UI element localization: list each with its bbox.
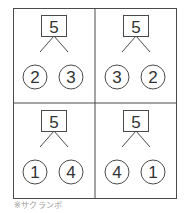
part-number-left: 1 <box>30 163 39 182</box>
part-number-right: 1 <box>148 163 157 182</box>
part-number-right: 3 <box>66 68 75 87</box>
part-number-left: 3 <box>112 68 121 87</box>
number-bond-cell: 5 1 4 <box>23 111 83 185</box>
number-bond-grid: 5 2 3 5 3 2 5 1 4 <box>13 8 177 199</box>
bond-line-right <box>136 131 150 147</box>
caption: ※サクランボ <box>14 199 63 210</box>
whole-number: 5 <box>49 18 58 37</box>
whole-number: 5 <box>131 113 140 132</box>
whole-number: 5 <box>49 113 58 132</box>
bond-line-left <box>40 131 54 147</box>
part-number-right: 4 <box>66 163 75 182</box>
bond-line-right <box>54 36 68 52</box>
bond-line-right <box>136 36 150 52</box>
bond-line-right <box>54 131 68 147</box>
bond-line-left <box>122 131 136 147</box>
bond-line-left <box>40 36 54 52</box>
number-bond-cell: 5 3 2 <box>105 16 165 90</box>
number-bond-cell: 5 4 1 <box>105 111 165 185</box>
part-number-left: 2 <box>30 68 39 87</box>
number-bond-cell: 5 2 3 <box>23 16 83 90</box>
part-number-right: 2 <box>148 68 157 87</box>
part-number-left: 4 <box>112 163 121 182</box>
bond-line-left <box>122 36 136 52</box>
whole-number: 5 <box>131 18 140 37</box>
